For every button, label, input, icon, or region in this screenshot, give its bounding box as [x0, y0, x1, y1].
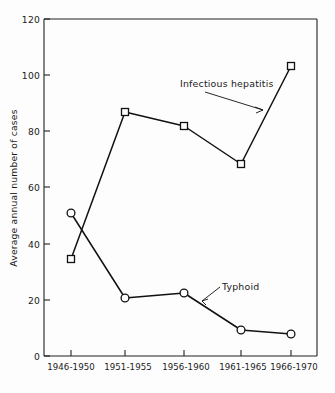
y-axis-tick-labels: 0 20 40 60 80 100 120	[22, 14, 40, 362]
plot-frame	[44, 19, 317, 356]
series-infectious-hepatitis	[68, 63, 295, 263]
data-point-hepatitis-1956-1960	[181, 123, 188, 130]
x-tick-label-3: 1956-1960	[162, 362, 210, 372]
y-tick-label-40: 40	[28, 239, 40, 250]
series-line-typhoid	[71, 213, 291, 334]
x-tick-label-1: 1946-1950	[47, 362, 95, 372]
chart-figure: 0 20 40 60 80 100 120 Average annual num…	[0, 0, 335, 393]
y-tick-label-0: 0	[34, 351, 40, 362]
data-point-typhoid-1956-1960	[180, 289, 188, 297]
annotation-arrowhead-hepatitis	[255, 107, 263, 113]
data-point-hepatitis-1946-1950	[68, 256, 75, 263]
annotation-label-infectious-hepatitis: Infectious hepatitis	[180, 78, 274, 89]
y-tick-label-20: 20	[28, 295, 40, 306]
x-tick-label-4: 1961-1965	[219, 362, 267, 372]
annotation-infectious-hepatitis: Infectious hepatitis	[180, 78, 274, 113]
series-typhoid	[67, 209, 295, 338]
annotation-leader-typhoid	[202, 287, 220, 301]
y-axis-title: Average annual number of cases	[8, 109, 19, 266]
x-axis-ticks	[71, 350, 291, 356]
data-point-hepatitis-1951-1955	[122, 109, 129, 116]
y-axis-ticks	[44, 19, 50, 356]
data-point-typhoid-1946-1950	[67, 209, 75, 217]
y-tick-label-80: 80	[28, 126, 40, 137]
data-point-typhoid-1951-1955	[121, 294, 129, 302]
data-point-hepatitis-1961-1965	[238, 161, 245, 168]
annotation-label-typhoid: Typhoid	[221, 281, 259, 292]
data-point-hepatitis-1966-1970	[288, 63, 295, 70]
data-point-typhoid-1966-1970	[287, 330, 295, 338]
x-tick-label-5: 1966-1970	[270, 362, 318, 372]
y-tick-label-100: 100	[22, 70, 40, 81]
series-line-infectious-hepatitis	[71, 66, 291, 259]
y-tick-label-60: 60	[28, 182, 40, 193]
line-chart-canvas: 0 20 40 60 80 100 120 Average annual num…	[0, 0, 335, 393]
x-tick-label-2: 1951-1955	[104, 362, 152, 372]
data-point-typhoid-1961-1965	[237, 326, 245, 334]
x-axis-tick-labels: 1946-1950 1951-1955 1956-1960 1961-1965 …	[47, 362, 318, 372]
annotation-typhoid: Typhoid	[202, 281, 259, 305]
annotation-leader-hepatitis	[205, 92, 263, 110]
y-tick-label-120: 120	[22, 14, 40, 25]
